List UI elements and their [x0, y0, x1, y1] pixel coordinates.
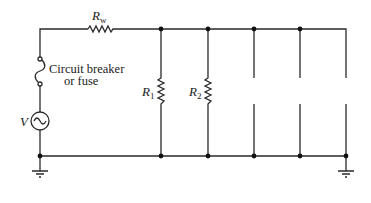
- resistor-rw: [88, 26, 346, 78]
- label-r1: R1: [141, 84, 154, 101]
- fuse-icon: [35, 57, 45, 86]
- circuit-diagram: Rw Circuit breaker or fuse R1 R2 V: [0, 0, 371, 203]
- label-fuse-line2: or fuse: [64, 74, 99, 88]
- ground-icon-left: [32, 171, 48, 177]
- ac-source-icon: [31, 112, 49, 130]
- label-rw: Rw: [91, 8, 107, 25]
- resistor-r1: [158, 29, 164, 156]
- resistor-r2: [205, 29, 211, 156]
- label-v: V: [20, 114, 30, 129]
- ground-icon-right: [338, 171, 354, 177]
- top-wire: [40, 29, 88, 57]
- label-r2: R2: [188, 84, 201, 101]
